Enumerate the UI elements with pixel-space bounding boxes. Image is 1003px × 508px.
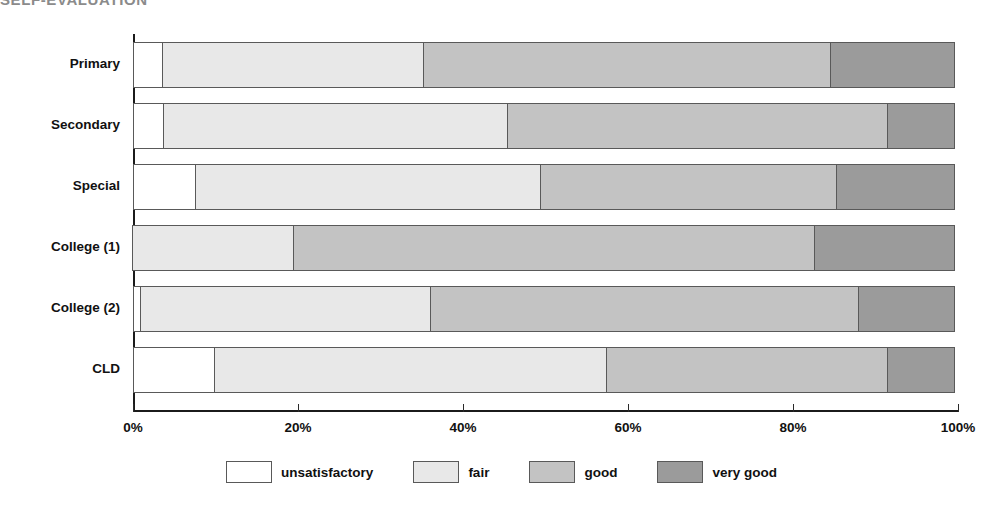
stacked-bar-row[interactable] bbox=[133, 42, 958, 88]
legend-label: unsatisfactory bbox=[281, 465, 373, 480]
stacked-bar-row[interactable] bbox=[133, 286, 958, 332]
x-axis-tick-label: 20% bbox=[284, 420, 311, 435]
bar-segment-very-good[interactable] bbox=[836, 164, 955, 210]
legend-swatch-icon bbox=[657, 461, 703, 483]
y-axis-category-label: CLD bbox=[0, 361, 120, 376]
chart-legend: unsatisfactoryfairgoodvery good bbox=[0, 461, 1003, 483]
bar-segment-fair[interactable] bbox=[132, 225, 294, 271]
chart-canvas: SELF-EVALUATION 0%20%40%60%80%100% Prima… bbox=[0, 0, 1003, 508]
legend-item[interactable]: fair bbox=[413, 461, 489, 483]
bar-segment-good[interactable] bbox=[423, 42, 831, 88]
bar-segment-good[interactable] bbox=[606, 347, 888, 393]
stacked-bar-row[interactable] bbox=[133, 164, 958, 210]
y-axis-category-label: Secondary bbox=[0, 117, 120, 132]
page-title: SELF-EVALUATION bbox=[0, 0, 400, 13]
bar-segment-fair[interactable] bbox=[195, 164, 542, 210]
bar-segment-good[interactable] bbox=[540, 164, 837, 210]
bar-segment-good[interactable] bbox=[293, 225, 815, 271]
legend-swatch-icon bbox=[529, 461, 575, 483]
bar-segment-very-good[interactable] bbox=[858, 286, 955, 332]
legend-item[interactable]: very good bbox=[657, 461, 777, 483]
bar-segment-very-good[interactable] bbox=[887, 103, 955, 149]
bar-segment-very-good[interactable] bbox=[887, 347, 955, 393]
bar-segment-unsatisfactory[interactable] bbox=[133, 164, 196, 210]
bar-segment-unsatisfactory[interactable] bbox=[133, 347, 215, 393]
bar-segment-fair[interactable] bbox=[140, 286, 430, 332]
bar-segment-unsatisfactory[interactable] bbox=[133, 103, 164, 149]
stacked-bar-row[interactable] bbox=[133, 225, 958, 271]
x-axis-tick-label: 40% bbox=[449, 420, 476, 435]
y-axis-category-label: Primary bbox=[0, 56, 120, 71]
y-axis-category-label: Special bbox=[0, 178, 120, 193]
bar-segment-unsatisfactory[interactable] bbox=[133, 42, 163, 88]
bar-segment-very-good[interactable] bbox=[830, 42, 955, 88]
legend-label: good bbox=[584, 465, 617, 480]
x-axis-tick-label: 100% bbox=[941, 420, 976, 435]
x-axis-tick-label: 0% bbox=[123, 420, 143, 435]
bar-segment-very-good[interactable] bbox=[814, 225, 955, 271]
plot-area bbox=[133, 36, 958, 411]
x-axis-tick-label: 80% bbox=[779, 420, 806, 435]
y-axis-category-label: College (1) bbox=[0, 239, 120, 254]
legend-label: very good bbox=[712, 465, 777, 480]
stacked-bar-row[interactable] bbox=[133, 347, 958, 393]
bar-segment-fair[interactable] bbox=[163, 103, 508, 149]
legend-item[interactable]: good bbox=[529, 461, 617, 483]
legend-swatch-icon bbox=[413, 461, 459, 483]
bar-segment-fair[interactable] bbox=[162, 42, 424, 88]
x-axis-tick-label: 60% bbox=[614, 420, 641, 435]
bar-segment-fair[interactable] bbox=[214, 347, 608, 393]
x-axis-tick bbox=[958, 404, 959, 412]
legend-label: fair bbox=[468, 465, 489, 480]
stacked-bar-row[interactable] bbox=[133, 103, 958, 149]
legend-item[interactable]: unsatisfactory bbox=[226, 461, 373, 483]
legend-swatch-icon bbox=[226, 461, 272, 483]
y-axis-category-label: College (2) bbox=[0, 300, 120, 315]
bar-segment-good[interactable] bbox=[507, 103, 888, 149]
bar-segment-good[interactable] bbox=[430, 286, 860, 332]
